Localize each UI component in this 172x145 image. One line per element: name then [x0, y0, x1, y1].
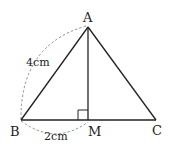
side-ac [88, 27, 156, 120]
label-m: M [88, 124, 101, 139]
side-ab [21, 27, 88, 120]
measure-bm: 2cm [44, 130, 68, 143]
label-b: B [10, 124, 20, 139]
right-angle-marker [78, 110, 88, 120]
triangle-diagram: A B M C 4cm 2cm [0, 0, 172, 145]
label-c: C [152, 123, 162, 138]
measure-ab: 4cm [26, 56, 50, 69]
label-a: A [82, 10, 93, 25]
